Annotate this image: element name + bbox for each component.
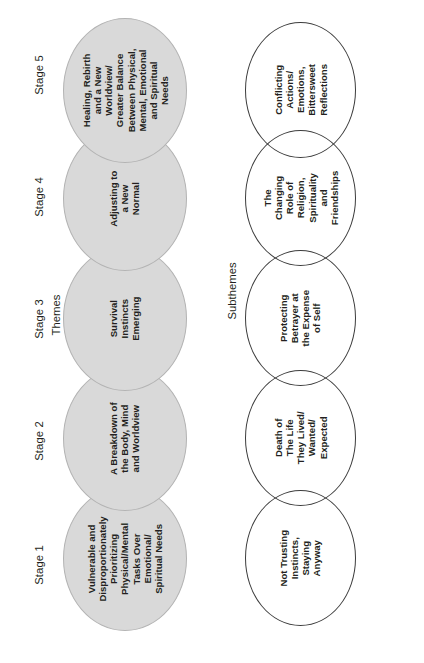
stage-label-5: Stage 5 (31, 30, 49, 120)
stage-label-4: Stage 4 (31, 152, 49, 242)
theme-text-stage-5: Healing, Rebirth and a New Worldview/ Gr… (81, 30, 170, 152)
subthemes-section-label: Subthemes (224, 236, 242, 346)
subtheme-ellipse-stage-1: Not Trusting Instincts, Staying Anyway (245, 490, 356, 626)
subtheme-ellipse-stage-3: Protecting Betrayer at the Expense of Se… (245, 250, 356, 386)
subtheme-text-stage-5: Conflicting Actions/ Emotions, Bitterswe… (273, 36, 329, 145)
theme-ellipse-stage-5: Healing, Rebirth and a New Worldview/ Gr… (63, 18, 187, 163)
subtheme-ellipse-stage-2: Death of The Life They Lived/ Wanted/ Ex… (245, 370, 356, 506)
theme-text-stage-3: Survival Instincts Emerging (108, 258, 141, 380)
stage-label-1: Stage 1 (31, 520, 49, 610)
theme-text-stage-2: A Breakdown of the Body, Mind and Worldv… (108, 378, 141, 500)
subtheme-text-stage-3: Protecting Betrayer at the Expense of Se… (278, 264, 323, 373)
subtheme-text-stage-4: The Changing Role of Religion, Spiritual… (262, 144, 340, 253)
stage-label-2: Stage 2 (31, 396, 49, 486)
subtheme-text-stage-1: Not Trusting Instincts, Staying Anyway (278, 504, 323, 613)
figure-canvas: Stage 1 Stage 2 Stage 3 Stage 4 Stage 5 … (0, 0, 424, 663)
stage-label-3: Stage 3 (31, 274, 49, 364)
subtheme-ellipse-stage-5: Conflicting Actions/ Emotions, Bitterswe… (245, 22, 356, 158)
theme-text-stage-1: Vulnerable and Disproportionately Priori… (86, 498, 164, 620)
subtheme-text-stage-2: Death of The Life They Lived/ Wanted/ Ex… (273, 384, 329, 493)
